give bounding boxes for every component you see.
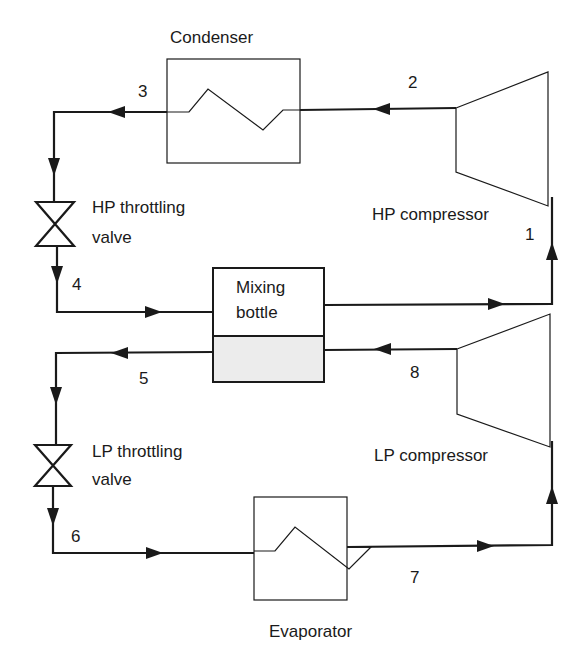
- hp-valve-label-line1: HP throttling: [92, 198, 185, 218]
- pipe-6: [53, 487, 254, 553]
- hp-compressor-shape: [456, 72, 548, 206]
- flow-arrow-7b: [546, 486, 558, 504]
- flow-arrow-6b: [146, 547, 163, 559]
- condenser-label: Condenser: [170, 28, 253, 48]
- state-point-7: 7: [410, 568, 419, 588]
- state-point-1: 1: [525, 225, 534, 245]
- evaporator-label: Evaporator: [269, 622, 352, 642]
- mixing-bottle-label-line2: bottle: [236, 303, 278, 323]
- state-point-4: 4: [72, 275, 81, 295]
- refrigeration-cycle-diagram: [0, 0, 582, 669]
- flow-arrow-5b: [50, 387, 62, 405]
- hp-valve-icon: [36, 202, 74, 246]
- flow-arrow-5a: [111, 347, 128, 359]
- flow-arrow-4b: [145, 306, 162, 318]
- flow-arrow-3b: [48, 158, 60, 176]
- mixing-bottle-label-line1: Mixing: [236, 278, 285, 298]
- flow-arrow-4a: [51, 266, 63, 284]
- flow-arrow-6a: [47, 508, 59, 526]
- flow-arrow-7a: [477, 540, 494, 552]
- condenser-coil: [167, 89, 300, 130]
- state-point-5: 5: [139, 369, 148, 389]
- state-point-8: 8: [410, 363, 419, 383]
- evaporator-box: [254, 497, 347, 600]
- flow-arrow-1a: [488, 298, 505, 310]
- hp-compressor-label: HP compressor: [372, 205, 489, 225]
- mixing-bottle-liquid: [213, 337, 324, 382]
- flow-arrow-8: [374, 343, 391, 355]
- condenser-box: [167, 59, 300, 163]
- lp-compressor-label: LP compressor: [374, 446, 488, 466]
- hp-valve-label-line2: valve: [92, 228, 132, 248]
- state-point-3: 3: [138, 82, 147, 102]
- state-point-6: 6: [71, 527, 80, 547]
- flow-arrow-2: [373, 103, 390, 115]
- pipe-5: [56, 352, 213, 444]
- lp-compressor-shape: [457, 314, 550, 447]
- flow-arrow-1b: [546, 242, 558, 260]
- pipe-3: [54, 112, 167, 201]
- flow-arrow-3a: [108, 106, 125, 118]
- lp-valve-label-line1: LP throttling: [92, 442, 182, 462]
- lp-valve-icon: [35, 445, 71, 486]
- state-point-2: 2: [408, 73, 417, 93]
- lp-valve-label-line2: valve: [92, 470, 132, 490]
